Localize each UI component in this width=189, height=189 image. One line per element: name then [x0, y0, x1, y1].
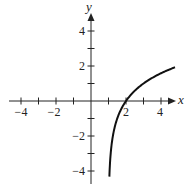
y-axis-label: y: [84, 0, 92, 14]
y-tick-label: 4: [79, 24, 85, 38]
x-tick-label: −2: [48, 105, 61, 119]
y-axis-arrow-icon: [88, 13, 95, 21]
y-tick-label: 2: [79, 59, 85, 73]
x-tick-label: 4: [157, 105, 163, 119]
x-axis-arrow-icon: [168, 98, 176, 105]
x-axis-label: x: [177, 92, 184, 107]
chart: −4 −2 2 4 4 2 −2 −4 x y: [0, 0, 189, 189]
function-curve: [109, 67, 175, 176]
y-tick-label: −4: [72, 164, 85, 178]
y-tick-label: −2: [72, 129, 85, 143]
x-tick-label: −4: [15, 105, 28, 119]
x-tick-label: 2: [123, 105, 129, 119]
